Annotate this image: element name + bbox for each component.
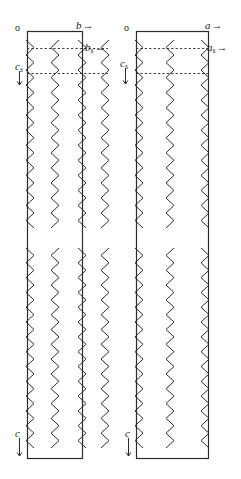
- polymer-chain-lower-2: [51, 248, 59, 448]
- left-c-down-arrow-icon: [17, 438, 22, 456]
- right-arrow-icon: →: [82, 19, 93, 31]
- right-cs-subscript: s: [125, 62, 128, 71]
- polymer-chain-lower-4: [101, 248, 109, 448]
- left-b-axis-text: b: [76, 19, 82, 31]
- left-bs-axis-label: bs→: [85, 42, 104, 55]
- right-arrow-icon: →: [93, 41, 104, 53]
- right-a-axis-text: a: [205, 19, 211, 31]
- right-c-axis-text: c: [125, 427, 130, 439]
- polymer-chain-lower-3: [201, 248, 209, 448]
- crystal-packing-figure: o b→ bs→ cs c o a→ as→ cs c: [0, 0, 241, 479]
- right-cs-axis-label: cs: [120, 58, 128, 71]
- right-a-axis-label: a→: [205, 20, 222, 31]
- polymer-chain-upper-2: [51, 40, 59, 228]
- right-arrow-icon: →: [211, 19, 222, 31]
- right-as-axis-label: as→: [207, 42, 226, 55]
- left-cs-subscript: s: [20, 65, 23, 74]
- figure-canvas: [0, 0, 241, 479]
- polymer-chain-upper-2: [166, 40, 174, 228]
- left-origin-label: o: [15, 23, 20, 33]
- right-origin-text: o: [124, 22, 129, 33]
- right-origin-label: o: [124, 23, 129, 33]
- polymer-chain-upper-4: [101, 40, 109, 228]
- projection-along-a-axis: [26, 32, 109, 459]
- left-c-axis-text: c: [15, 427, 20, 439]
- polymer-chain-lower-2: [166, 248, 174, 448]
- polymer-chain-upper-3: [201, 40, 209, 228]
- right-c-down-arrow-icon: [126, 438, 131, 456]
- right-c-axis-label: c: [125, 428, 130, 439]
- unit-cell-box: [28, 32, 83, 459]
- left-c-axis-label: c: [15, 428, 20, 439]
- left-cs-axis-label: cs: [15, 61, 23, 74]
- projection-along-b-axis: [135, 32, 210, 459]
- left-b-axis-label: b→: [76, 20, 93, 31]
- right-arrow-icon: →: [215, 41, 226, 53]
- left-origin-text: o: [15, 22, 20, 33]
